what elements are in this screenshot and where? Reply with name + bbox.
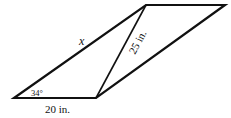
- parallelogram-diagram: x 25 in. 34° 20 in.: [0, 0, 231, 118]
- label-diagonal: 25 in.: [126, 28, 148, 56]
- label-base: 20 in.: [45, 103, 70, 115]
- label-angle: 34°: [31, 88, 43, 98]
- label-side-x: x: [78, 34, 85, 48]
- parallelogram-shape: [14, 5, 225, 98]
- diagram-svg: x 25 in. 34° 20 in.: [0, 0, 231, 118]
